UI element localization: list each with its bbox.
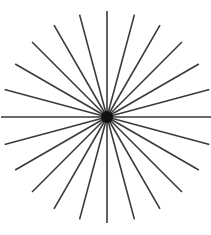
starburst-diagram — [0, 0, 211, 235]
starburst-figure-container — [0, 0, 211, 235]
center-convergence-hub — [101, 111, 113, 123]
